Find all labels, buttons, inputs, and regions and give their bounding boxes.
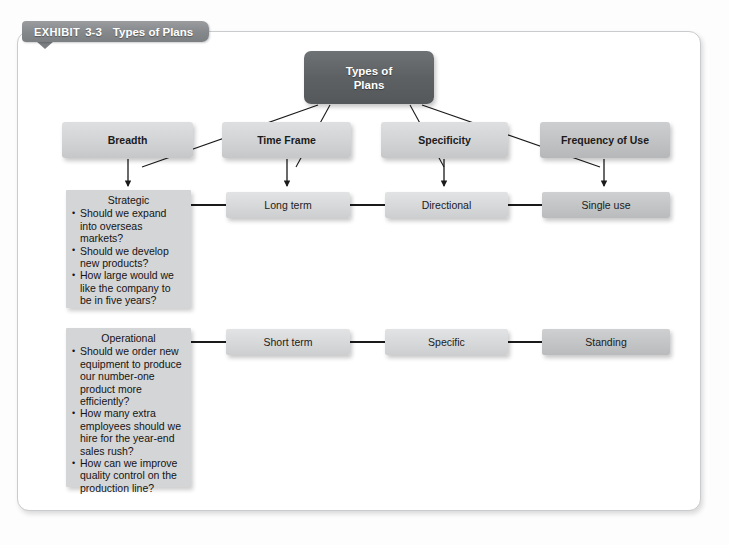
list-item: How many extra employees should we hire … bbox=[72, 407, 185, 457]
node-single-use[interactable]: Single use bbox=[542, 192, 670, 218]
node-specific[interactable]: Specific bbox=[385, 329, 508, 355]
banner-notch bbox=[36, 41, 54, 49]
node-directional[interactable]: Directional bbox=[385, 192, 508, 218]
root-line-1: Types of bbox=[346, 65, 392, 77]
node-category-specificity[interactable]: Specificity bbox=[381, 122, 508, 158]
node-category-frequency-of-use[interactable]: Frequency of Use bbox=[540, 122, 670, 158]
node-short-term-label: Short term bbox=[263, 336, 312, 348]
panel-operational-bullets: Should we order new equipment to produce… bbox=[72, 345, 185, 494]
node-standing[interactable]: Standing bbox=[542, 329, 670, 355]
list-item: Should we expand into overseas markets? bbox=[72, 207, 185, 244]
node-category-breadth[interactable]: Breadth bbox=[62, 122, 193, 158]
node-single-use-label: Single use bbox=[581, 199, 630, 211]
node-category-time-frame-label: Time Frame bbox=[257, 134, 316, 146]
list-item: Should we develop new products? bbox=[72, 245, 185, 270]
node-types-of-plans-label: Types of Plans bbox=[346, 64, 392, 92]
panel-operational[interactable]: Operational Should we order new equipmen… bbox=[66, 328, 191, 487]
list-item: How large would we like the company to b… bbox=[72, 269, 185, 306]
list-item: Should we order new equipment to produce… bbox=[72, 345, 185, 407]
node-category-breadth-label: Breadth bbox=[108, 134, 148, 146]
panel-operational-title: Operational bbox=[72, 332, 185, 344]
node-standing-label: Standing bbox=[585, 336, 626, 348]
panel-strategic[interactable]: Strategic Should we expand into overseas… bbox=[66, 190, 191, 308]
node-long-term[interactable]: Long term bbox=[226, 192, 350, 218]
node-category-specificity-label: Specificity bbox=[418, 134, 471, 146]
exhibit-label: EXHIBIT bbox=[34, 26, 80, 38]
list-item: How can we improve quality control on th… bbox=[72, 457, 185, 494]
exhibit-number: 3-3 bbox=[85, 26, 102, 38]
node-specific-label: Specific bbox=[428, 336, 465, 348]
node-directional-label: Directional bbox=[422, 199, 472, 211]
panel-strategic-title: Strategic bbox=[72, 194, 185, 206]
node-types-of-plans[interactable]: Types of Plans bbox=[304, 51, 434, 104]
node-category-time-frame[interactable]: Time Frame bbox=[222, 122, 351, 158]
node-short-term[interactable]: Short term bbox=[226, 329, 350, 355]
panel-strategic-bullets: Should we expand into overseas markets? … bbox=[72, 207, 185, 306]
node-long-term-label: Long term bbox=[264, 199, 311, 211]
exhibit-title: Types of Plans bbox=[113, 26, 193, 38]
types-of-plans-diagram: Types of Plans Breadth Time Frame Specif… bbox=[0, 0, 729, 545]
exhibit-title-banner: EXHIBIT 3-3 Types of Plans bbox=[22, 21, 209, 42]
node-category-frequency-of-use-label: Frequency of Use bbox=[561, 134, 649, 146]
root-line-2: Plans bbox=[354, 79, 385, 91]
